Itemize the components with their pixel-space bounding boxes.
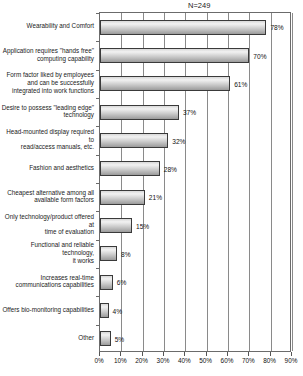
gridline <box>164 13 165 351</box>
category-tick <box>96 13 100 14</box>
bar-value-label: 70% <box>253 52 266 59</box>
category-label: Functional and reliable technology, it w… <box>0 241 94 264</box>
x-tick-label: 0% <box>94 357 103 364</box>
bar-value-label: 61% <box>234 80 247 87</box>
bar[interactable] <box>100 105 179 120</box>
x-tick-mark <box>227 352 228 356</box>
category-label: Form factor liked by employees and can b… <box>0 71 94 94</box>
x-tick-label: 30% <box>157 357 170 364</box>
x-tick-label: 60% <box>221 357 234 364</box>
x-tick-label: 90% <box>285 357 298 364</box>
bar[interactable] <box>100 161 160 176</box>
category-label: Wearability and Comfort <box>0 22 94 30</box>
x-tick-mark <box>184 352 185 356</box>
x-tick-mark <box>270 352 271 356</box>
bar-value-label: 15% <box>136 222 149 229</box>
bar-group: 32% <box>100 133 292 148</box>
gridline <box>185 13 186 351</box>
bar-value-label: 78% <box>270 24 283 31</box>
bar-group: 6% <box>100 275 292 290</box>
x-tick-label: 20% <box>135 357 148 364</box>
bar-value-label: 28% <box>164 165 177 172</box>
category-label: Cheapest alternative among all available… <box>0 189 94 204</box>
bar[interactable] <box>100 190 145 205</box>
x-tick-mark <box>163 352 164 356</box>
bar-group: 15% <box>100 218 292 233</box>
category-tick <box>96 325 100 326</box>
gridline <box>271 13 272 351</box>
gridline <box>121 13 122 351</box>
bar-value-label: 4% <box>113 307 123 314</box>
x-tick-label: 10% <box>114 357 127 364</box>
gridline <box>143 13 144 351</box>
category-label: Head-mounted display required to read/ac… <box>0 128 94 151</box>
plot-area: 78%70%61%37%32%28%21%15%8%6%4%5% <box>99 12 291 352</box>
bar[interactable] <box>100 331 111 346</box>
category-tick <box>96 268 100 269</box>
bar-chart: N=249 Wearability and ComfortApplication… <box>0 0 303 376</box>
category-tick <box>96 183 100 184</box>
bar[interactable] <box>100 133 168 148</box>
bar[interactable] <box>100 48 249 63</box>
bar-group: 78% <box>100 20 292 35</box>
x-tick-mark <box>248 352 249 356</box>
bar-group: 4% <box>100 303 292 318</box>
category-label: Only technology/product offered at time … <box>0 213 94 236</box>
bar-group: 70% <box>100 48 292 63</box>
x-tick-mark <box>120 352 121 356</box>
bar-value-label: 5% <box>115 335 125 342</box>
category-label: Fashion and aesthetics <box>0 164 94 172</box>
category-tick <box>96 155 100 156</box>
gridline <box>228 13 229 351</box>
bar-group: 37% <box>100 105 292 120</box>
category-axis-labels: Wearability and ComfortApplication requi… <box>0 12 97 352</box>
x-tick-label: 50% <box>199 357 212 364</box>
bar-value-label: 37% <box>183 109 196 116</box>
bar-group: 61% <box>100 76 292 91</box>
x-tick-mark <box>291 352 292 356</box>
category-label: Application requires "hands free" comput… <box>0 47 94 62</box>
x-axis-labels: 0%10%20%30%40%50%60%70%80%90% <box>99 357 291 371</box>
category-label: Desire to possess "leading edge" technol… <box>0 104 94 119</box>
category-label: Increases real-time communications capab… <box>0 274 94 289</box>
category-tick <box>96 240 100 241</box>
category-label: Other <box>0 334 94 342</box>
bar-group: 5% <box>100 331 292 346</box>
gridline <box>207 13 208 351</box>
bar-group: 28% <box>100 161 292 176</box>
bar-value-label: 21% <box>149 194 162 201</box>
category-tick <box>96 41 100 42</box>
bar[interactable] <box>100 20 266 35</box>
bar[interactable] <box>100 76 230 91</box>
bar-group: 21% <box>100 190 292 205</box>
category-tick <box>96 126 100 127</box>
bar[interactable] <box>100 246 117 261</box>
x-tick-label: 80% <box>263 357 276 364</box>
bar[interactable] <box>100 303 109 318</box>
x-tick-mark <box>142 352 143 356</box>
chart-title: N=249 <box>188 1 210 10</box>
gridline <box>249 13 250 351</box>
bar-value-label: 6% <box>117 279 127 286</box>
x-tick-mark <box>99 352 100 356</box>
category-label: Offers bio-monitoring capabilities <box>0 306 94 314</box>
bar-value-label: 32% <box>172 137 185 144</box>
category-tick <box>96 296 100 297</box>
x-tick-mark <box>206 352 207 356</box>
gridline <box>292 13 293 351</box>
bar-group: 8% <box>100 246 292 261</box>
x-tick-label: 40% <box>178 357 191 364</box>
bar[interactable] <box>100 275 113 290</box>
category-tick <box>96 211 100 212</box>
x-tick-label: 70% <box>242 357 255 364</box>
bar[interactable] <box>100 218 132 233</box>
category-tick <box>96 98 100 99</box>
category-tick <box>96 70 100 71</box>
bar-value-label: 8% <box>121 250 131 257</box>
